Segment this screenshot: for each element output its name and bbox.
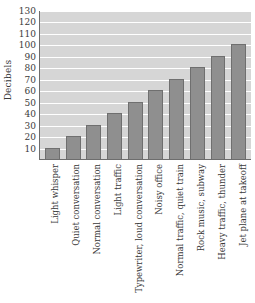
- y-axis-tick: 100: [19, 41, 36, 50]
- y-axis-title: Decibels: [0, 0, 16, 160]
- bar-slot: [166, 11, 187, 159]
- bar-slot: [83, 11, 104, 159]
- x-axis-tick-label: Quiet conversation: [72, 164, 81, 246]
- x-axis-tick-label: Typewriter, loud conversation: [135, 164, 144, 293]
- y-axis-tick: 30: [25, 121, 36, 130]
- y-axis-tick: 50: [25, 98, 36, 107]
- bar[interactable]: [107, 113, 122, 159]
- x-axis-tick-label: Noisy office: [155, 164, 164, 215]
- plot-area: [39, 11, 251, 160]
- x-axis-tick-slot: Normal traffic, quiet train: [166, 162, 187, 298]
- bar-series: [40, 11, 251, 159]
- bar-slot: [146, 11, 167, 159]
- x-axis-tick-label: Rock music, subway: [197, 164, 206, 251]
- bar[interactable]: [190, 67, 205, 159]
- y-axis-tick: 130: [19, 7, 36, 16]
- x-axis-tick-slot: Heavy traffic, thunder: [207, 162, 228, 298]
- bar[interactable]: [211, 56, 226, 159]
- x-axis-tick-slot: Noisy office: [145, 162, 166, 298]
- y-axis-tick: 110: [19, 29, 36, 38]
- x-axis-tick-label: Normal conversation: [93, 164, 102, 255]
- bar[interactable]: [45, 148, 60, 159]
- x-axis-tick-label: Light whisper: [51, 164, 60, 224]
- x-axis-tick-slot: Quiet conversation: [62, 162, 83, 298]
- bar[interactable]: [169, 79, 184, 159]
- y-axis-tick: 120: [19, 18, 36, 27]
- bar-slot: [187, 11, 208, 159]
- y-axis-tick: 80: [25, 64, 36, 73]
- x-axis-tick-label: Light traffic: [114, 164, 123, 215]
- bar[interactable]: [128, 102, 143, 159]
- x-axis-tick-slot: Typewriter, loud conversation: [124, 162, 145, 298]
- bar-slot: [208, 11, 229, 159]
- x-axis-tick-labels: Light whisperQuiet conversationNormal co…: [39, 162, 251, 298]
- bar[interactable]: [148, 90, 163, 159]
- x-axis-tick-slot: Normal conversation: [83, 162, 104, 298]
- x-axis-tick-label: Heavy traffic, thunder: [218, 164, 227, 260]
- x-axis-tick-slot: Light whisper: [41, 162, 62, 298]
- y-axis-tick: 40: [25, 110, 36, 119]
- bar[interactable]: [231, 44, 246, 159]
- y-axis-title-text: Decibels: [3, 60, 13, 101]
- x-axis-tick-label: Jet plane at takeoff: [239, 164, 248, 246]
- y-axis-tick: 10: [25, 144, 36, 153]
- bar-slot: [42, 11, 63, 159]
- bar[interactable]: [66, 136, 81, 159]
- bar-chart: Decibels 130120110100908070605040302010 …: [0, 0, 255, 303]
- y-axis-tick: 60: [25, 87, 36, 96]
- bar-slot: [125, 11, 146, 159]
- bar-slot: [63, 11, 84, 159]
- x-axis-tick-slot: Light traffic: [103, 162, 124, 298]
- y-axis-tick-labels: 130120110100908070605040302010: [16, 11, 37, 160]
- bar-slot: [228, 11, 249, 159]
- x-axis-tick-label: Normal traffic, quiet train: [176, 164, 185, 276]
- y-axis-tick: 20: [25, 133, 36, 142]
- x-axis-tick-slot: Jet plane at takeoff: [228, 162, 249, 298]
- y-axis-tick: 70: [25, 75, 36, 84]
- bar[interactable]: [86, 125, 101, 159]
- y-axis-tick: 90: [25, 52, 36, 61]
- x-axis-tick-slot: Rock music, subway: [187, 162, 208, 298]
- bar-slot: [104, 11, 125, 159]
